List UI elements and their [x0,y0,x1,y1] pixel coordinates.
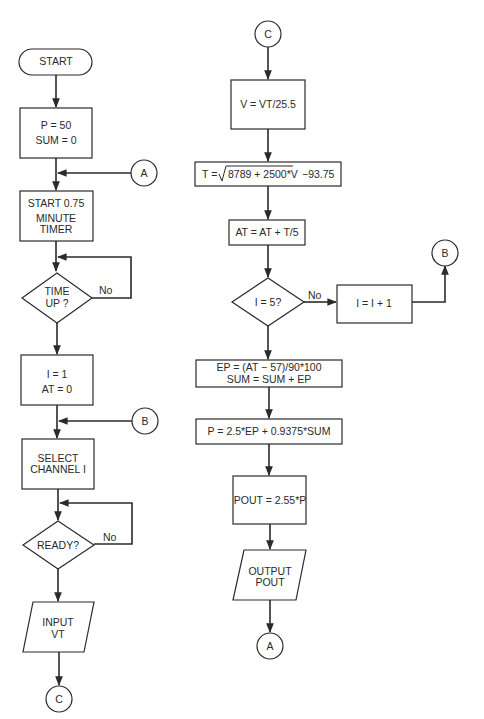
p-calc-box: P = 2.5*EP + 0.9375*SUM [196,419,342,444]
time-up-no-label: No [99,284,113,296]
connector-a-label: A [140,167,147,179]
connector-b-out-label: B [441,247,448,259]
output-label-2: POUT [255,576,285,588]
timer-box: START 0.75 MINUTE TIMER [20,191,93,241]
p-calc-label: P = 2.5*EP + 0.9375*SUM [208,425,331,437]
output-pout-parallelogram: OUTPUT POUT [233,550,306,600]
connector-a-in: A [131,160,157,186]
pout-calc-box: POUT = 2.55*P [233,476,306,524]
at-calc-label: AT = AT + T/5 [235,226,298,238]
v-calc-box: V = VT/25.5 [231,80,305,129]
input-vt-parallelogram: INPUT VT [23,602,94,652]
i-check-label: I = 5? [255,296,282,308]
i-increment-label: I = I + 1 [356,297,392,309]
i-check-no-label: No [308,289,322,301]
sum-calc-label: SUM = SUM + EP [227,373,312,385]
select-channel-box: SELECT CHANNEL I [22,439,94,489]
input-label-1: INPUT [42,616,74,628]
input-label-2: VT [51,628,65,640]
ready-label: READY? [37,539,79,551]
v-calc-label: V = VT/25.5 [240,98,296,110]
t-calc-box: T = 8789 + 2500*V −93.75 [195,162,341,186]
start-label: START [39,55,73,67]
init-sum-label: SUM = 0 [35,134,76,146]
connector-c-out: C [46,686,72,712]
connector-c-label: C [55,693,63,705]
connector-b-label: B [141,415,148,427]
i-check-decision: I = 5? [232,278,304,326]
pout-calc-label: POUT = 2.55*P [234,494,306,506]
init-i-label: I = 1 [47,368,68,380]
time-up-label-1: TIME [44,285,69,297]
ep-calc-label: EP = (AT − 57)/90*100 [216,361,321,373]
t-calc-radicand: 8789 + 2500*V [228,168,298,180]
connector-a-out-label: A [266,640,273,652]
t-calc-prefix: T = [202,168,217,180]
connector-a-out: A [257,633,283,659]
t-calc-suffix: −93.75 [302,168,335,180]
ep-sum-calc-box: EP = (AT − 57)/90*100 SUM = SUM + EP [196,360,342,387]
time-up-label-2: UP ? [45,297,68,309]
start-terminator: START [19,49,92,75]
connector-c-in-label: C [264,28,272,40]
flowchart: START P = 50 SUM = 0 A START 0.75 MINUTE… [0,0,484,719]
ready-no-label: No [103,531,117,543]
select-label-2: CHANNEL I [30,463,86,475]
init-at-label: AT = 0 [42,383,72,395]
connector-b-in: B [132,408,158,434]
timer-label-1: START 0.75 [28,197,85,209]
ready-decision: READY? [23,521,94,569]
init-p-sum-box: P = 50 SUM = 0 [20,108,92,158]
time-up-decision: TIME UP ? [22,273,92,323]
timer-label-3: TIMER [40,223,73,235]
connector-b-out: B [432,240,458,266]
i-increment-box: I = I + 1 [337,285,412,323]
connector-c-in: C [255,21,281,47]
init-i-at-box: I = 1 AT = 0 [21,355,93,405]
to-connector-b-arrow [412,266,445,302]
init-p-label: P = 50 [41,119,72,131]
at-calc-box: AT = AT + T/5 [229,220,305,245]
